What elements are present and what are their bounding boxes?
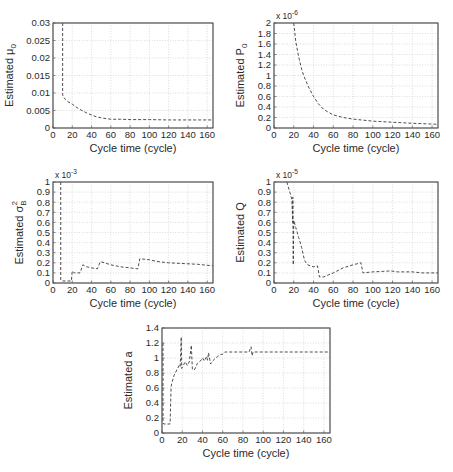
y-tick-label: 0.7 <box>258 207 271 218</box>
y-tick-label: 2 <box>266 17 271 28</box>
x-tick-label: 140 <box>296 434 312 445</box>
axes-box <box>162 328 330 433</box>
axis-multiplier: x 10-6 <box>276 9 298 21</box>
y-tick-label: 0.7 <box>37 207 50 218</box>
axis-multiplier: x 10-5 <box>276 168 298 180</box>
x-tick-label: 0 <box>271 129 276 140</box>
y-tick-label: 0.4 <box>258 237 271 248</box>
x-tick-label: 60 <box>328 284 339 295</box>
y-tick-label: 0.2 <box>146 412 159 423</box>
x-tick-label: 60 <box>328 129 339 140</box>
x-axis-label: Cycle time (cycle) <box>90 142 177 154</box>
y-tick-label: 1.4 <box>258 49 271 60</box>
x-tick-label: 160 <box>424 129 440 140</box>
y-tick-label: 0.8 <box>37 197 50 208</box>
x-tick-label: 120 <box>276 434 292 445</box>
x-tick-label: 40 <box>86 284 97 295</box>
x-tick-label: 80 <box>348 129 359 140</box>
y-tick-label: 0.6 <box>37 217 50 228</box>
x-tick-label: 100 <box>255 434 271 445</box>
x-tick-label: 140 <box>404 129 420 140</box>
x-tick-label: 120 <box>385 129 401 140</box>
y-tick-label: 1 <box>266 70 271 81</box>
y-tick-label: 0 <box>154 427 159 438</box>
y-tick-label: 0.6 <box>258 217 271 228</box>
x-tick-label: 80 <box>348 284 359 295</box>
x-tick-label: 20 <box>288 284 299 295</box>
x-tick-label: 120 <box>161 129 177 140</box>
y-tick-label: 0.5 <box>37 227 50 238</box>
y-tick-label: 0.4 <box>258 101 271 112</box>
y-tick-label: 0.6 <box>146 382 159 393</box>
x-tick-label: 60 <box>217 434 228 445</box>
axis-multiplier: x 10-3 <box>55 168 77 180</box>
x-axis-label: Cycle time (cycle) <box>313 142 400 154</box>
x-tick-label: 140 <box>404 284 420 295</box>
x-tick-label: 60 <box>106 129 117 140</box>
y-axis-label: Estimated a <box>122 351 134 410</box>
y-tick-label: 1.2 <box>146 337 159 348</box>
y-tick-label: 0.03 <box>32 17 51 28</box>
axes-box <box>274 23 438 128</box>
x-tick-label: 20 <box>67 129 78 140</box>
x-tick-label: 0 <box>50 284 55 295</box>
y-tick-label: 0.4 <box>37 237 50 248</box>
x-tick-label: 20 <box>67 284 78 295</box>
y-axis-label: Estimated σB2 <box>10 200 28 264</box>
y-tick-label: 1 <box>266 176 271 187</box>
x-tick-label: 100 <box>141 284 157 295</box>
subplot-a: 02040608010012014016000.20.40.60.811.21.… <box>122 322 332 459</box>
subplot-sigmaB2: 02040608010012014016000.10.20.30.40.50.6… <box>10 168 215 309</box>
y-tick-label: 0.9 <box>37 186 50 197</box>
x-axis-label: Cycle time (cycle) <box>313 297 400 309</box>
x-tick-label: 0 <box>50 129 55 140</box>
x-tick-label: 40 <box>308 284 319 295</box>
figure: 02040608010012014016000.0050.010.0150.02… <box>0 0 453 472</box>
y-tick-label: 0.6 <box>258 91 271 102</box>
y-tick-label: 0.02 <box>32 52 51 63</box>
x-tick-label: 100 <box>141 129 157 140</box>
x-tick-label: 80 <box>238 434 249 445</box>
x-tick-label: 160 <box>316 434 332 445</box>
y-tick-label: 0.8 <box>258 80 271 91</box>
y-tick-label: 0 <box>266 277 271 288</box>
subplot-p0: 02040608010012014016000.20.40.60.811.21.… <box>234 9 440 154</box>
x-tick-label: 120 <box>161 284 177 295</box>
y-tick-label: 0.3 <box>37 247 50 258</box>
x-tick-label: 80 <box>125 284 136 295</box>
y-tick-label: 1.8 <box>258 28 271 39</box>
y-tick-label: 0.3 <box>258 247 271 258</box>
x-tick-label: 40 <box>197 434 208 445</box>
subplot-mu0: 02040608010012014016000.0050.010.0150.02… <box>3 17 215 154</box>
x-tick-label: 40 <box>308 129 319 140</box>
x-tick-label: 40 <box>86 129 97 140</box>
y-tick-label: 0.8 <box>146 367 159 378</box>
y-tick-label: 0.01 <box>32 87 51 98</box>
x-tick-label: 160 <box>424 284 440 295</box>
x-tick-label: 140 <box>180 284 196 295</box>
x-tick-label: 160 <box>199 284 215 295</box>
y-tick-label: 1.2 <box>258 59 271 70</box>
y-tick-label: 0.2 <box>258 257 271 268</box>
x-axis-label: Cycle time (cycle) <box>203 447 290 459</box>
y-tick-label: 0.2 <box>37 257 50 268</box>
x-tick-label: 20 <box>177 434 188 445</box>
y-tick-label: 1 <box>45 176 50 187</box>
y-axis-label: Estimated P0 <box>234 43 249 107</box>
x-tick-label: 100 <box>365 284 381 295</box>
y-axis-label: Estimated Q <box>234 202 246 263</box>
subplot-q: 02040608010012014016000.10.20.30.40.50.6… <box>234 168 440 309</box>
y-tick-label: 0.1 <box>258 267 271 278</box>
axes-box <box>274 182 438 283</box>
y-tick-label: 0.005 <box>26 105 50 116</box>
y-tick-label: 0.9 <box>258 186 271 197</box>
x-tick-label: 0 <box>159 434 164 445</box>
y-tick-label: 0.5 <box>258 227 271 238</box>
x-tick-label: 140 <box>180 129 196 140</box>
y-tick-label: 0 <box>45 277 50 288</box>
x-axis-label: Cycle time (cycle) <box>90 297 177 309</box>
y-tick-label: 0.015 <box>26 70 50 81</box>
x-tick-label: 0 <box>271 284 276 295</box>
y-tick-label: 0 <box>266 122 271 133</box>
y-tick-label: 0.025 <box>26 35 50 46</box>
